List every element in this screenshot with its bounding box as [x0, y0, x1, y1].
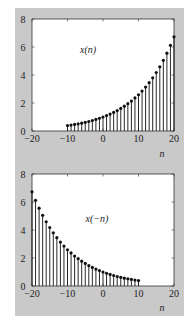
stem-marker — [91, 119, 94, 122]
stem-marker — [126, 277, 129, 280]
stem-marker — [94, 267, 97, 270]
stem-marker — [91, 266, 94, 269]
x-tick-label: 0 — [101, 133, 106, 144]
y-tick-label: 6 — [21, 197, 26, 208]
y-tick-label: 2 — [21, 253, 26, 264]
y-tick-label: 2 — [21, 98, 26, 109]
stem-marker — [101, 270, 104, 273]
stem-marker — [77, 122, 80, 125]
stem-marker — [112, 274, 115, 277]
x-tick-label: 0 — [101, 288, 106, 299]
stem-marker — [66, 248, 69, 251]
stem-marker — [66, 124, 69, 127]
stem-marker — [151, 76, 154, 79]
stem-marker — [126, 102, 129, 105]
stem-marker — [73, 123, 76, 126]
stem-marker — [133, 279, 136, 282]
stem-marker — [116, 275, 119, 278]
stem-marker — [119, 276, 122, 279]
stem-marker — [172, 35, 175, 38]
stem-marker — [59, 240, 62, 243]
stem-marker — [87, 264, 90, 267]
stem-marker — [73, 254, 76, 257]
stem-marker — [140, 90, 143, 93]
stem-marker — [34, 199, 37, 202]
x-tick-label: 20 — [169, 288, 179, 299]
stem-marker — [116, 109, 119, 112]
stem-marker — [55, 236, 58, 239]
stem-marker — [144, 85, 147, 88]
stem-marker — [80, 260, 83, 263]
stem-marker — [48, 226, 51, 229]
stem-marker — [87, 120, 90, 123]
stem-marker — [105, 114, 108, 117]
stem-marker — [112, 111, 115, 114]
stem-marker — [105, 272, 108, 275]
plot-x-minus-n: −20−100102002468x(−n)n — [21, 169, 180, 314]
stem-marker — [109, 112, 112, 115]
y-tick-label: 8 — [21, 169, 26, 180]
stem-marker — [137, 279, 140, 282]
x-tick-label: 10 — [134, 288, 144, 299]
stem-marker — [77, 257, 80, 260]
stem-marker — [123, 277, 126, 280]
x-tick-label: −10 — [60, 288, 76, 299]
stem-marker — [130, 278, 133, 281]
y-tick-label: 0 — [21, 126, 26, 137]
stem-marker — [69, 124, 72, 127]
stem-marker — [94, 118, 97, 121]
y-tick-label: 8 — [21, 14, 26, 25]
stem-marker — [41, 214, 44, 217]
stem-marker — [45, 220, 48, 223]
stem-marker — [155, 71, 158, 74]
stem-marker — [133, 96, 136, 99]
y-tick-label: 0 — [21, 281, 26, 292]
stem-marker — [148, 81, 151, 84]
x-axis-label: n — [160, 148, 165, 159]
stem-marker — [123, 105, 126, 108]
y-tick-label: 4 — [21, 70, 26, 81]
stem-marker — [38, 207, 41, 210]
stem-marker — [98, 117, 101, 120]
stem-marker — [101, 115, 104, 118]
stem-marker — [52, 231, 55, 234]
stem-marker — [158, 65, 161, 68]
y-tick-label: 4 — [21, 225, 26, 236]
series-label: x(n) — [79, 44, 97, 56]
x-tick-label: −10 — [60, 133, 76, 144]
x-tick-label: −20 — [24, 288, 40, 299]
stem-marker — [169, 44, 172, 47]
x-axis-label: n — [160, 302, 165, 313]
plot-x-n: −20−100102002468x(n)n — [21, 14, 180, 160]
stem-marker — [69, 251, 72, 254]
stem-plots: −20−100102002468x(n)n −20−100102002468x(… — [0, 0, 192, 327]
stem-marker — [30, 190, 33, 193]
y-tick-label: 6 — [21, 42, 26, 53]
stem-marker — [165, 52, 168, 55]
stem-marker — [98, 269, 101, 272]
series-label: x(−n) — [85, 213, 110, 225]
stem-marker — [162, 59, 165, 62]
stem-marker — [109, 273, 112, 276]
stem-marker — [84, 121, 87, 124]
x-tick-label: 20 — [169, 133, 179, 144]
stem-marker — [119, 107, 122, 110]
stem-marker — [137, 93, 140, 96]
x-tick-label: 10 — [134, 133, 144, 144]
stem-marker — [130, 99, 133, 102]
stem-marker — [84, 262, 87, 265]
x-tick-label: −20 — [24, 133, 40, 144]
stem-marker — [62, 245, 65, 248]
stem-marker — [80, 122, 83, 125]
